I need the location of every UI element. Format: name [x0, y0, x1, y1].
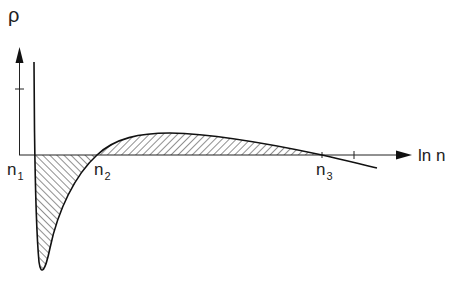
x-axis-arrow-icon — [396, 151, 412, 160]
y-axis-label: ρ — [8, 4, 19, 27]
point-label-n2: n2 — [94, 160, 111, 180]
diagram-canvas — [0, 0, 454, 284]
x-axis-label: ln n — [418, 146, 445, 166]
y-axis-arrow-icon — [16, 47, 24, 63]
negative-region — [35, 155, 97, 271]
point-label-n1: n1 — [7, 160, 24, 180]
point-label-n3: n3 — [316, 160, 333, 180]
